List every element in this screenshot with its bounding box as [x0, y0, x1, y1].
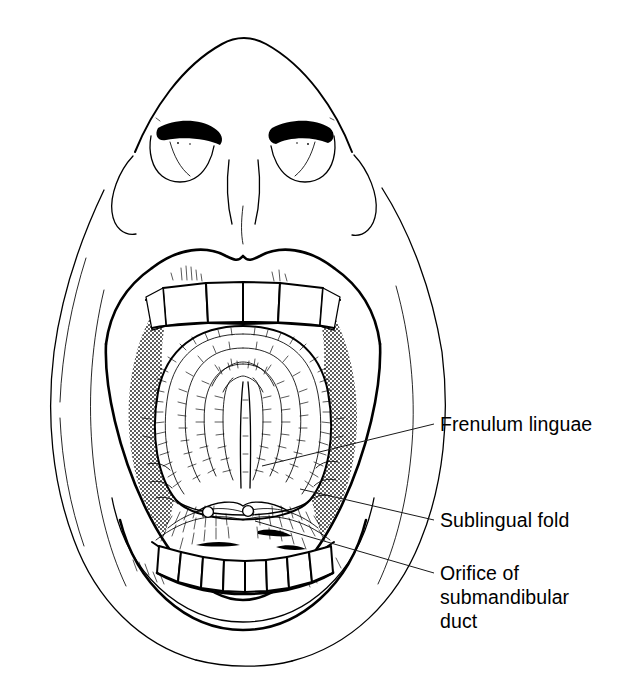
sublingual-shadow-center [196, 542, 240, 547]
nostril-right-stipple-3 [301, 132, 303, 134]
nostril-right-rim [271, 136, 335, 182]
label-orifice-submandibular-duct-line-2: submandibular [440, 586, 570, 608]
upper-lip-vermilion [152, 250, 334, 268]
chin-contour [196, 660, 292, 666]
upper-incisor-4 [278, 283, 323, 326]
cheek-crease-left-outer [60, 258, 86, 402]
nostril-right-stipple-5 [318, 132, 320, 134]
nostril-left-stipple-6 [177, 142, 179, 144]
nostril-right-stipple-4 [310, 135, 312, 137]
labels-group: Frenulum linguae Sublingual fold Orifice… [440, 413, 592, 632]
nostril-left-rim [150, 136, 214, 182]
lower-incisor-3 [201, 557, 224, 591]
label-orifice-submandibular-duct-line-1: Orifice of [440, 562, 520, 584]
nostril-right-stipple-2 [292, 135, 294, 137]
cheek-crease-right-inner [378, 286, 413, 584]
nostril-left-stipple-7 [189, 143, 191, 145]
nostril-left-group [150, 121, 222, 182]
lower-incisor-8 [309, 546, 333, 582]
nostril-right-shadow [269, 121, 334, 144]
upper-lip-hair-ticks [171, 266, 287, 281]
nostril-left-stipple-1 [166, 133, 168, 135]
nose-ala-right [352, 155, 376, 235]
nose-tick-left [156, 118, 160, 121]
nostril-right-inner [295, 142, 315, 176]
upper-teeth-group [146, 282, 340, 330]
nostril-left-stipple-5 [200, 132, 202, 134]
lower-incisor-1 [157, 546, 181, 582]
nose-tick-right [330, 118, 334, 120]
nostril-left-shadow [156, 121, 222, 145]
nostril-left-inner [170, 142, 190, 176]
nostril-left-stipple-4 [192, 135, 194, 137]
lower-incisor-7 [287, 552, 312, 588]
nose-ala-left [112, 156, 136, 234]
columella-right [255, 160, 260, 224]
upper-incisor-2 [206, 282, 243, 324]
nose-group [112, 38, 377, 244]
nostril-right-stipple-6 [296, 142, 298, 144]
duct-orifice-left-group [202, 507, 214, 518]
lower-incisor-6 [266, 557, 289, 591]
sublingual-shadow-lower-right [276, 545, 306, 550]
nostril-right-stipple-7 [307, 143, 309, 145]
lower-incisor-2 [178, 552, 203, 588]
nostril-left-stipple-2 [174, 136, 176, 138]
columella-left [227, 160, 232, 224]
duct-orifice-right [243, 506, 254, 517]
lower-teeth-group [152, 542, 334, 594]
duct-orifice-left [203, 507, 214, 518]
nostril-right-stipple-1 [283, 132, 285, 134]
lower-incisor-5 [245, 560, 267, 592]
cheek-crease-left-lower [60, 418, 84, 546]
anatomy-illustration: Frenulum linguae Sublingual fold Orifice… [0, 0, 639, 673]
nostril-left-stipple-3 [183, 132, 185, 134]
lower-incisor-4 [223, 560, 245, 592]
upper-incisor-1 [163, 283, 208, 326]
label-frenulum-linguae: Frenulum linguae [440, 413, 592, 435]
philtrum-line [242, 206, 244, 244]
upper-incisor-3 [243, 282, 280, 324]
label-orifice-submandibular-duct-line-3: duct [440, 610, 478, 632]
nostril-right-group [269, 121, 335, 182]
label-sublingual-fold: Sublingual fold [440, 509, 569, 531]
sublingual-fold-outer [156, 517, 330, 540]
figure-root: Frenulum linguae Sublingual fold Orifice… [0, 0, 639, 673]
